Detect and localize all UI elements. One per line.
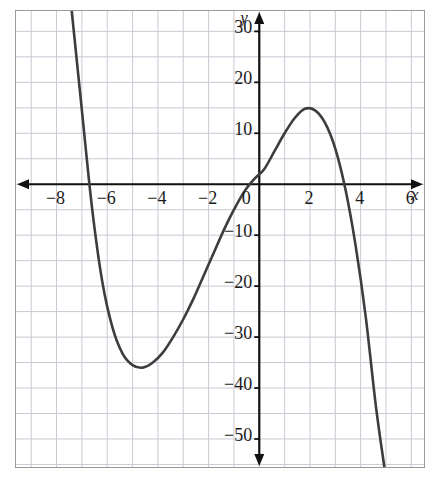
x-tick-label: 0 [226,188,266,209]
y-tick-label: 20 [206,68,252,89]
x-axis-label: x [411,185,419,205]
y-axis-line [254,12,264,466]
chart-container: −8−6−4−20246 302010−10−20−30−40−50 x y [0,0,440,477]
x-tick-label: −8 [36,188,76,209]
x-tick-label: 2 [289,188,329,209]
y-tick-label: −40 [206,374,252,395]
y-tick-label: −20 [206,272,252,293]
y-tick-label: 10 [206,119,252,140]
x-tick-label: −6 [86,188,126,209]
y-tick-label: −10 [206,221,252,242]
x-tick-label: −4 [137,188,177,209]
y-tick-label: −50 [206,425,252,446]
x-tick-label: 4 [340,188,380,209]
y-axis-label: y [240,8,248,28]
horizontal-gridlines [16,31,424,464]
y-tick-label: −30 [206,323,252,344]
x-tick-label: −2 [188,188,228,209]
